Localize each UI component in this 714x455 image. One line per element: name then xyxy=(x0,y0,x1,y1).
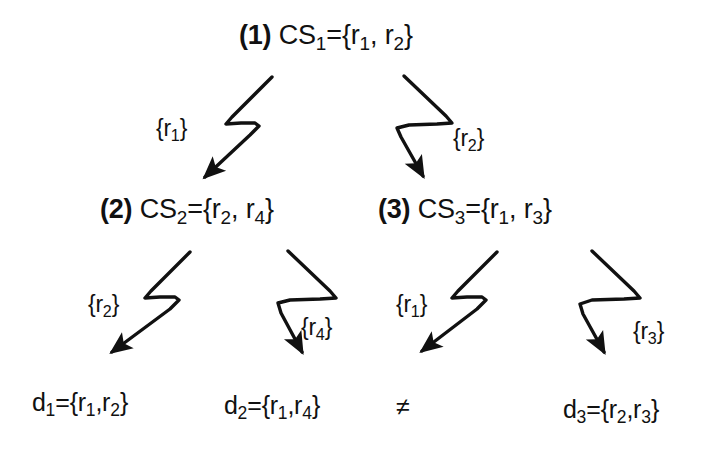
leaf-d2-name: d xyxy=(224,391,238,419)
edge-layer xyxy=(0,0,714,455)
leaf-d1-set: {r1,r2} xyxy=(70,388,128,416)
brace-close: } xyxy=(420,291,427,317)
edge-label-cs3-neq-sub: 1 xyxy=(411,302,420,320)
edge-cs3-to-d3 xyxy=(580,251,640,352)
leaf-d2-subscript: 2 xyxy=(238,403,248,423)
node-cs3-index: (3) xyxy=(378,194,410,224)
node-cs1-equals: = xyxy=(326,20,342,50)
edge-label-cs3-d3-r: r xyxy=(640,318,647,344)
leaf-d2-set: {r1,r4} xyxy=(262,391,320,419)
node-cs2[interactable]: (2) CS2={r2, r4} xyxy=(100,196,274,223)
edge-label-cs3-d3-sub: 3 xyxy=(648,329,657,347)
edge-label-cs1-cs2-sub: 1 xyxy=(171,126,180,144)
leaf-d3-equals: = xyxy=(586,395,600,423)
leaf-d3-name: d xyxy=(563,395,577,423)
edge-label-cs2-d2: {r4} xyxy=(301,316,332,339)
leaf-d1-equals: = xyxy=(55,388,69,416)
edge-cs2-to-d1 xyxy=(112,252,190,352)
brace-close: } xyxy=(112,291,119,317)
node-cs2-name: CS xyxy=(140,194,177,224)
node-cs3-name: CS xyxy=(418,194,455,224)
node-cs2-equals: = xyxy=(187,194,203,224)
node-cs1-subscript: 1 xyxy=(316,33,327,54)
leaf-d1[interactable]: d1={r1,r2} xyxy=(32,390,128,415)
brace-close: } xyxy=(180,115,187,141)
edge-label-cs1-cs2: {r1} xyxy=(156,117,187,140)
node-cs1-name: CS xyxy=(279,20,316,50)
edge-cs1-to-cs2 xyxy=(205,77,272,177)
node-cs3-set: {r1, r3} xyxy=(481,194,552,224)
node-cs2-index: (2) xyxy=(100,194,132,224)
edge-label-cs2-d1-r: r xyxy=(95,291,102,317)
brace-close: } xyxy=(477,125,484,151)
leaf-d3-set: {r2,r3} xyxy=(601,395,659,423)
node-cs3-subscript: 3 xyxy=(455,207,466,228)
edge-label-cs3-d3: {r3} xyxy=(633,320,664,343)
leaf-d1-subscript: 1 xyxy=(46,400,56,420)
leaf-d2[interactable]: d2={r1,r4} xyxy=(224,393,320,418)
leaf-d1-name: d xyxy=(32,388,46,416)
edge-label-cs2-d2-r: r xyxy=(308,314,315,340)
node-cs1-set: {r1, r2} xyxy=(342,20,413,50)
brace-close: } xyxy=(325,314,332,340)
edge-label-cs2-d1-sub: 2 xyxy=(103,302,112,320)
edge-cs3-to-neq xyxy=(422,252,497,351)
edge-label-cs3-neq-r: r xyxy=(403,291,410,317)
node-cs3-equals: = xyxy=(465,194,481,224)
brace-close: } xyxy=(657,318,664,344)
leaf-d3-subscript: 3 xyxy=(577,407,587,427)
edge-cs1-to-cs3 xyxy=(397,76,452,176)
leaf-d3[interactable]: d3={r2,r3} xyxy=(563,397,659,422)
edge-label-cs1-cs3: {r2} xyxy=(453,127,484,150)
edge-label-cs1-cs3-sub: 2 xyxy=(468,136,477,154)
node-cs2-subscript: 2 xyxy=(177,207,188,228)
node-cs2-set: {r2, r4} xyxy=(203,194,274,224)
not-equal-sign: ≠ xyxy=(396,394,410,419)
node-cs1[interactable]: (1) CS1={r1, r2} xyxy=(239,22,413,49)
edge-label-cs2-d2-sub: 4 xyxy=(316,325,325,343)
diagram-canvas: (1) CS1={r1, r2} (2) CS2={r2, r4} (3) CS… xyxy=(0,0,714,455)
node-cs1-index: (1) xyxy=(239,20,271,50)
edge-label-cs1-cs3-r: r xyxy=(460,125,467,151)
node-cs3[interactable]: (3) CS3={r1, r3} xyxy=(378,196,552,223)
edge-label-cs1-cs2-r: r xyxy=(163,115,170,141)
edge-label-cs3-neq: {r1} xyxy=(396,293,427,316)
leaf-d2-equals: = xyxy=(247,391,261,419)
edge-label-cs2-d1: {r2} xyxy=(88,293,119,316)
